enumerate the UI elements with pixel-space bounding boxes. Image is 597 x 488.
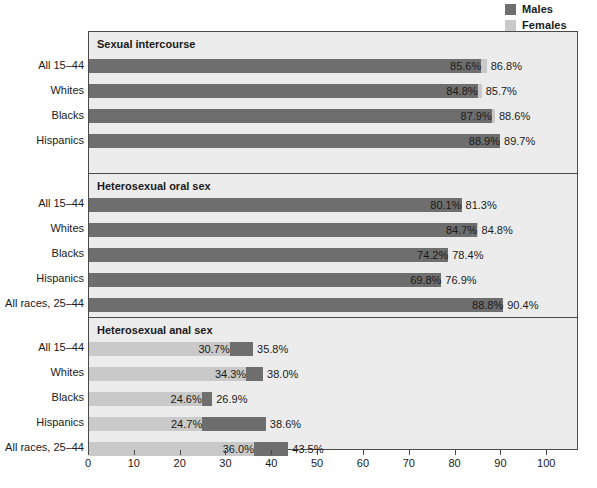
axis-tick-label: 100 <box>531 457 561 469</box>
bar-value-females: 34.3% <box>89 367 249 381</box>
bar-value-females: 90.4% <box>503 298 538 312</box>
bar-value-females: 84.8% <box>478 223 513 237</box>
chart-plot-area: Sexual intercourse85.6%86.8%84.8%85.7%87… <box>88 31 578 450</box>
category-label: Whites <box>0 365 84 379</box>
axis-tick <box>546 450 547 455</box>
bar-value-males: 88.8% <box>89 298 506 312</box>
category-label: All 15–44 <box>0 340 84 354</box>
bar-value-males: 26.9% <box>212 392 247 406</box>
bar-value-females: 85.7% <box>482 84 517 98</box>
bar-value-females: 78.4% <box>448 248 483 262</box>
bar-value-females: 89.7% <box>500 134 535 148</box>
bar-value-males: 80.1% <box>89 198 465 212</box>
category-label: Whites <box>0 83 84 97</box>
bar-value-males: 74.2% <box>89 248 451 262</box>
category-label: All 15–44 <box>0 58 84 72</box>
axis-tick <box>363 450 364 455</box>
axis-tick-label: 60 <box>348 457 378 469</box>
panel-title: Heterosexual anal sex <box>97 324 213 336</box>
chart-panel-2: Heterosexual oral sex80.1%81.3%84.7%84.8… <box>89 173 577 317</box>
legend-swatch-icon-females <box>505 20 516 31</box>
bar-value-males: 88.9% <box>89 134 503 148</box>
bar-value-females: 76.9% <box>441 273 476 287</box>
bar-value-males: 35.8% <box>253 342 288 356</box>
bar-row: 24.7%38.6% <box>89 417 577 431</box>
legend-item-males: Males <box>505 2 597 16</box>
bar-value-males: 69.8% <box>89 273 444 287</box>
axis-tick-label: 90 <box>485 457 515 469</box>
bar-row: 84.8%85.7% <box>89 84 577 98</box>
axis-tick-label: 0 <box>73 457 103 469</box>
bar-row: 74.2%78.4% <box>89 248 577 262</box>
axis-tick <box>455 450 456 455</box>
bar-row: 85.6%86.8% <box>89 59 577 73</box>
bar-row: 69.8%76.9% <box>89 273 577 287</box>
chart-legend: Males Females <box>505 2 597 34</box>
axis-tick <box>271 450 272 455</box>
category-label: Blacks <box>0 390 84 404</box>
category-label: All races, 25–44 <box>0 296 84 310</box>
category-label: Hispanics <box>0 133 84 147</box>
legend-label-females: Females <box>522 19 567 31</box>
bar-value-males: 84.7% <box>89 223 480 237</box>
axis-tick <box>409 450 410 455</box>
chart-panel-1: Sexual intercourse85.6%86.8%84.8%85.7%87… <box>89 32 577 173</box>
category-label: Hispanics <box>0 271 84 285</box>
bar-row: 87.9%88.6% <box>89 109 577 123</box>
axis-tick <box>180 450 181 455</box>
bar-value-females: 81.3% <box>462 198 497 212</box>
axis-tick <box>88 450 89 455</box>
bar-value-males: 87.9% <box>89 109 495 123</box>
bar-row: 88.8%90.4% <box>89 298 577 312</box>
legend-label-males: Males <box>522 3 553 15</box>
axis-tick-label: 10 <box>119 457 149 469</box>
axis-tick-label: 30 <box>210 457 240 469</box>
category-label: Hispanics <box>0 415 84 429</box>
panel-title: Heterosexual oral sex <box>97 180 211 192</box>
axis-tick <box>134 450 135 455</box>
bar-row: 30.7%35.8% <box>89 342 577 356</box>
axis-tick-label: 40 <box>256 457 286 469</box>
legend-swatch-icon-males <box>505 4 516 15</box>
bar-value-males: 38.6% <box>266 417 301 431</box>
bar-row: 88.9%89.7% <box>89 134 577 148</box>
axis-tick-label: 80 <box>440 457 470 469</box>
panel-title: Sexual intercourse <box>97 38 195 50</box>
category-label: Blacks <box>0 108 84 122</box>
bar-value-females: 88.6% <box>495 109 530 123</box>
bar-value-males: 38.0% <box>263 367 298 381</box>
category-label: All races, 25–44 <box>0 440 84 454</box>
bar-row: 84.7%84.8% <box>89 223 577 237</box>
axis-tick-label: 50 <box>302 457 332 469</box>
bar-value-females: 86.8% <box>487 59 522 73</box>
category-label: All 15–44 <box>0 196 84 210</box>
bar-row: 80.1%81.3% <box>89 198 577 212</box>
legend-item-females: Females <box>505 18 597 32</box>
chart-panel-3: Heterosexual anal sex30.7%35.8%34.3%38.0… <box>89 317 577 450</box>
bar-value-females: 24.6% <box>89 392 205 406</box>
category-label: Blacks <box>0 246 84 260</box>
bar-row: 34.3%38.0% <box>89 367 577 381</box>
axis-tick <box>317 450 318 455</box>
axis-tick <box>225 450 226 455</box>
bar-value-females: 24.7% <box>89 417 205 431</box>
bar-row: 24.6%26.9% <box>89 392 577 406</box>
category-label: Whites <box>0 221 84 235</box>
bar-value-males: 84.8% <box>89 84 481 98</box>
x-axis: 0102030405060708090100 <box>88 450 578 488</box>
bar-value-females: 30.7% <box>89 342 233 356</box>
axis-tick <box>500 450 501 455</box>
axis-tick-label: 20 <box>165 457 195 469</box>
bar-value-males: 85.6% <box>89 59 484 73</box>
axis-tick-label: 70 <box>394 457 424 469</box>
